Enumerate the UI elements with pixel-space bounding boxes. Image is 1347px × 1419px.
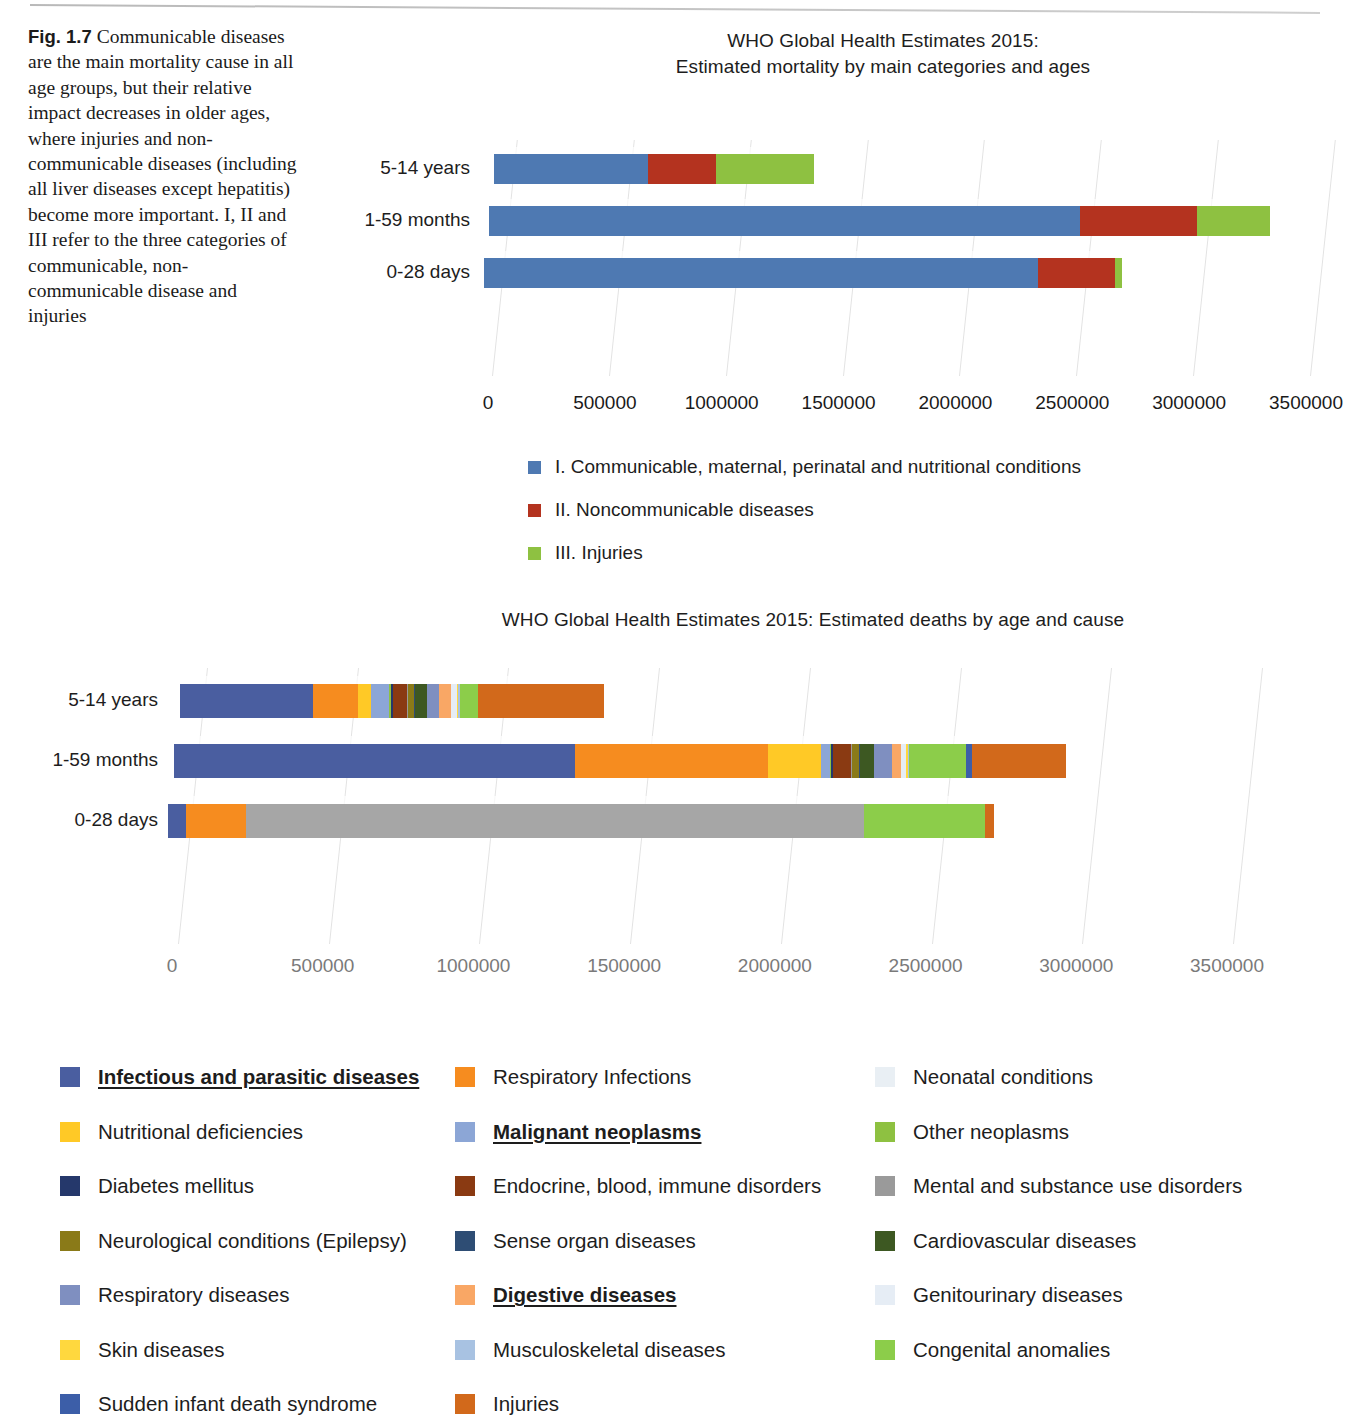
x-tick-label: 2000000 [715, 955, 835, 977]
x-tick-label: 2500000 [1012, 392, 1132, 414]
legend-swatch [60, 1122, 80, 1142]
legend-swatch [60, 1231, 80, 1251]
bar-top-face [168, 796, 1005, 804]
chart1-x-axis: 0500000100000015000002000000250000030000… [440, 392, 1326, 418]
bar-segment [313, 684, 358, 718]
legend-item: Skin diseases [60, 1338, 455, 1362]
legend-swatch [60, 1285, 80, 1305]
legend-label: Congenital anomalies [913, 1338, 1110, 1362]
legend-swatch [455, 1122, 475, 1142]
legend-item: Respiratory Infections [455, 1065, 875, 1089]
x-tick-label: 1500000 [564, 955, 684, 977]
bar-segment [439, 684, 451, 718]
legend-item: I. Communicable, maternal, perinatal and… [528, 450, 1228, 484]
legend-label: Respiratory Infections [493, 1065, 691, 1089]
chart1-plot-area [484, 140, 1302, 380]
bar-segment [864, 804, 985, 838]
legend-label: Endocrine, blood, immune disorders [493, 1174, 821, 1198]
bar-segment [393, 684, 407, 718]
legend-item: Respiratory diseases [60, 1283, 455, 1307]
bar-segment [460, 684, 478, 718]
bar-segment [246, 804, 864, 838]
legend-item: III. Injuries [528, 536, 1228, 570]
bar-top-face [489, 199, 1280, 206]
legend-swatch [455, 1231, 475, 1251]
legend-swatch [875, 1067, 895, 1087]
legend-item: Mental and substance use disorders [875, 1174, 1295, 1198]
x-tick-label: 1500000 [779, 392, 899, 414]
bar-top-face [180, 676, 616, 684]
legend-label: Sudden infant death syndrome [98, 1392, 377, 1416]
figure-caption-text: Communicable diseases are the main morta… [28, 26, 297, 326]
legend-label: Digestive diseases [493, 1283, 676, 1307]
bar-top-face [494, 147, 824, 154]
legend-label: Skin diseases [98, 1338, 224, 1362]
legend-item: Other neoplasms [875, 1120, 1295, 1144]
legend-swatch [60, 1067, 80, 1087]
legend-item: Sense organ diseases [455, 1229, 875, 1253]
bar-segment [415, 684, 427, 718]
legend-label: Genitourinary diseases [913, 1283, 1123, 1307]
chart1-title-line2: Estimated mortality by main categories a… [440, 54, 1326, 80]
x-tick-label: 2500000 [866, 955, 986, 977]
legend-item: Cardiovascular diseases [875, 1229, 1295, 1253]
legend-item: Congenital anomalies [875, 1338, 1295, 1362]
category-label: 0-28 days [387, 261, 470, 283]
legend-item: II. Noncommunicable diseases [528, 493, 1228, 527]
bar-segment [494, 154, 648, 184]
x-tick-label: 1000000 [413, 955, 533, 977]
legend-item: Infectious and parasitic diseases [60, 1065, 455, 1089]
legend-label: Sense organ diseases [493, 1229, 696, 1253]
x-tick-label: 0 [428, 392, 548, 414]
legend-item: Musculoskeletal diseases [455, 1338, 875, 1362]
legend-item: Nutritional deficiencies [60, 1120, 455, 1144]
bar-segment [1115, 258, 1122, 288]
bar-segment [860, 744, 873, 778]
bar-segment [768, 744, 821, 778]
x-tick-label: 1000000 [662, 392, 782, 414]
legend-swatch [875, 1340, 895, 1360]
gridline [1233, 668, 1263, 944]
legend-item: Neonatal conditions [875, 1065, 1295, 1089]
legend-swatch [60, 1340, 80, 1360]
bar-segment [484, 258, 1038, 288]
chart1-legend: I. Communicable, maternal, perinatal and… [528, 450, 1228, 579]
x-tick-label: 3500000 [1167, 955, 1287, 977]
legend-swatch [875, 1122, 895, 1142]
x-tick-label: 2000000 [895, 392, 1015, 414]
x-tick-label: 3500000 [1246, 392, 1347, 414]
legend-label: Respiratory diseases [98, 1283, 289, 1307]
legend-label: Other neoplasms [913, 1120, 1069, 1144]
legend-swatch [528, 547, 541, 560]
legend-swatch [60, 1176, 80, 1196]
legend-label: II. Noncommunicable diseases [555, 499, 814, 521]
bar-segment [1197, 206, 1269, 236]
legend-swatch [875, 1176, 895, 1196]
bar-segment [478, 684, 605, 718]
legend-label: Cardiovascular diseases [913, 1229, 1136, 1253]
legend-swatch [455, 1067, 475, 1087]
bar-segment [358, 684, 372, 718]
figure-caption-label: Fig. 1.7 [28, 26, 92, 47]
bar-segment [821, 744, 830, 778]
bar-0-28-days [484, 258, 1122, 288]
chart1-title: WHO Global Health Estimates 2015: Estima… [440, 28, 1326, 80]
chart2-x-axis: 0500000100000015000002000000250000030000… [100, 955, 1326, 981]
legend-swatch [875, 1231, 895, 1251]
category-label: 1-59 months [52, 749, 158, 771]
gridline [1193, 140, 1219, 376]
legend-swatch [528, 504, 541, 517]
bar-segment [892, 744, 901, 778]
bar-segment [972, 744, 1065, 778]
legend-item: Malignant neoplasms [455, 1120, 875, 1144]
legend-swatch [455, 1285, 475, 1305]
figure-caption: Fig. 1.7 Communicable diseases are the m… [28, 24, 298, 329]
x-tick-label: 500000 [263, 955, 383, 977]
bar-segment [180, 684, 313, 718]
bar-segment [1038, 258, 1115, 288]
bar-segment [874, 744, 892, 778]
page-header-rule [30, 4, 1320, 14]
bar-segment [985, 804, 994, 838]
bar-1-59-months [174, 744, 1066, 778]
legend-label: Mental and substance use disorders [913, 1174, 1242, 1198]
